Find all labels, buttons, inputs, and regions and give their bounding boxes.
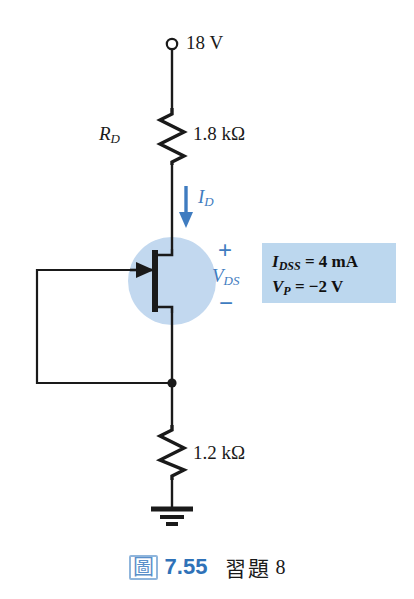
drain-current-arrow-head-icon — [179, 212, 193, 228]
drain-resistor-symbol: R — [99, 123, 111, 144]
figure-caption-text: 習題 — [225, 552, 271, 582]
vp-symbol: V — [272, 277, 283, 296]
idss-subscript: DSS — [279, 259, 301, 273]
figure-number: 7.55 — [165, 554, 208, 580]
vds-minus-sign-label: − — [219, 296, 233, 310]
figure-problem-number: 8 — [275, 556, 285, 579]
vds-label: VDS — [212, 266, 240, 287]
source-resistor-icon — [160, 425, 184, 480]
drain-resistor-icon — [160, 108, 184, 165]
vp-value: = −2 V — [295, 277, 343, 296]
source-resistor-value-label: 1.2 kΩ — [193, 443, 245, 462]
drain-resistor-subscript: D — [111, 131, 120, 146]
jfet-parameters-box: IDSS = 4 mA VP = −2 V — [262, 243, 396, 303]
drain-current-label: ID — [198, 187, 214, 208]
vds-plus-sign-label: + — [218, 238, 232, 262]
supply-voltage-label: 18 V — [186, 33, 223, 52]
drain-current-subscript: D — [204, 194, 213, 209]
open-terminal-circle-icon — [167, 39, 177, 49]
figure-caption: 圖7.55習題8 — [0, 552, 414, 582]
vp-subscript: P — [283, 284, 290, 298]
parameter-line-vp: VP = −2 V — [272, 275, 396, 300]
figure-container: 18 V RD 1.8 kΩ 1.2 kΩ ID + VDS − IDSS = … — [0, 0, 414, 599]
parameter-line-idss: IDSS = 4 mA — [272, 250, 396, 275]
figure-badge-icon: 圖 — [129, 555, 158, 580]
idss-symbol: I — [272, 252, 279, 271]
vds-symbol: V — [212, 265, 224, 286]
junction-dot-icon — [167, 378, 176, 387]
drain-resistor-value-label: 1.8 kΩ — [193, 124, 245, 143]
vds-subscript: DS — [224, 273, 240, 288]
idss-value: = 4 mA — [305, 252, 358, 271]
drain-resistor-name-label: RD — [99, 124, 120, 145]
